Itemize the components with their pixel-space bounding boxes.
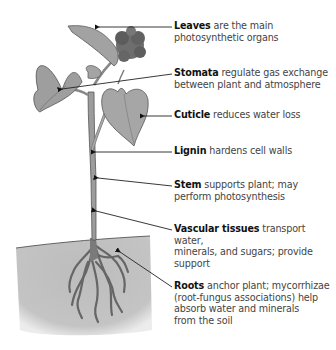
label-cuticle: Cuticle reduces water loss	[174, 109, 300, 121]
leaf-top	[68, 26, 118, 66]
leaf-left	[34, 66, 82, 112]
label-leaves: Leaves are the main photosynthetic organ…	[174, 20, 278, 43]
label-roots: Roots anchor plant; mycorrhizae (root-fu…	[174, 280, 330, 326]
term-stem: Stem	[174, 179, 201, 190]
term-roots: Roots	[174, 280, 204, 291]
term-cuticle: Cuticle	[174, 109, 210, 120]
term-vascular-tissues: Vascular tissues	[174, 223, 259, 234]
flower-cluster	[115, 26, 146, 62]
leaf-small	[86, 66, 101, 79]
label-lignin: Lignin hardens cell walls	[174, 145, 292, 157]
label-stem: Stem supports plant; may perform photosy…	[174, 179, 298, 202]
term-stomata: Stomata	[174, 67, 219, 78]
leaf-right	[102, 88, 149, 146]
soil	[16, 236, 152, 335]
label-stomata: Stomata regulate gas exchange between pl…	[174, 67, 328, 90]
term-lignin: Lignin	[174, 145, 206, 156]
term-leaves: Leaves	[174, 20, 211, 31]
stem	[88, 92, 96, 240]
label-vascular-tissues: Vascular tissues transport water, minera…	[174, 223, 336, 269]
